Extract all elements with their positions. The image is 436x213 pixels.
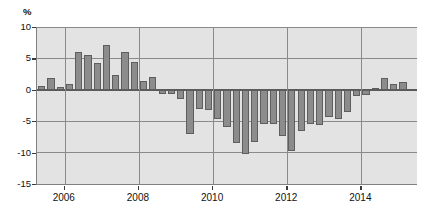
bar [84,55,91,90]
bar [159,90,166,94]
bar [223,90,230,128]
gridline-vertical [139,27,140,184]
x-axis-tick-mark [138,186,139,190]
bar [344,90,351,113]
gridline-horizontal [37,58,417,59]
bar [38,86,45,90]
bar-chart: % 1050-5-10-15 20062008201020122014 [0,0,436,213]
y-axis-tick-labels: 1050-5-10-15 [0,0,31,213]
x-axis-tick-mark [360,186,361,190]
bar [186,90,193,134]
bar [57,87,64,90]
gridline-vertical [361,27,362,184]
bar [131,62,138,90]
bar [94,63,101,90]
y-axis-tick-label: -10 [17,148,31,158]
y-axis-tick-label: -5 [23,116,31,126]
bar [260,90,267,124]
bar [205,90,212,110]
bar [140,81,147,90]
plot-area [36,27,417,185]
bar [279,90,286,136]
y-axis-tick-label: 10 [20,22,31,32]
bar [121,52,128,90]
bar [316,90,323,125]
bar [381,78,388,90]
x-axis-tick-label: 2010 [201,192,223,203]
bar [75,52,82,90]
bar [298,90,305,131]
y-axis-tick-label: 0 [26,85,31,95]
bar [353,90,360,96]
x-axis-tick-label: 2008 [127,192,149,203]
bar [307,90,314,125]
x-axis-tick-mark [286,186,287,190]
x-axis-tick-label: 2014 [349,192,371,203]
bar [66,84,73,90]
x-axis-tick-label: 2006 [53,192,75,203]
bar [390,84,397,90]
bar [399,82,406,90]
bar [168,90,175,94]
bar [103,45,110,90]
bar [242,90,249,155]
bar [335,90,342,119]
x-axis-tick-mark [64,186,65,190]
gridline-horizontal [37,27,417,28]
bar [233,90,240,143]
gridline-vertical [65,27,66,184]
bar [372,88,379,90]
gridline-horizontal [37,152,417,153]
bar [214,90,221,119]
y-axis-tick-label: -15 [17,179,31,189]
y-axis-tick-label: 5 [26,53,31,63]
bar [251,90,258,142]
x-axis-tick-label: 2012 [275,192,297,203]
bar [47,78,54,89]
bar [196,90,203,109]
x-axis-tick-mark [212,186,213,190]
bar [362,90,369,95]
bar [112,75,119,90]
bar [177,90,184,99]
bar [288,90,295,151]
bar [270,90,277,125]
bar [325,90,332,117]
bar [149,77,156,90]
